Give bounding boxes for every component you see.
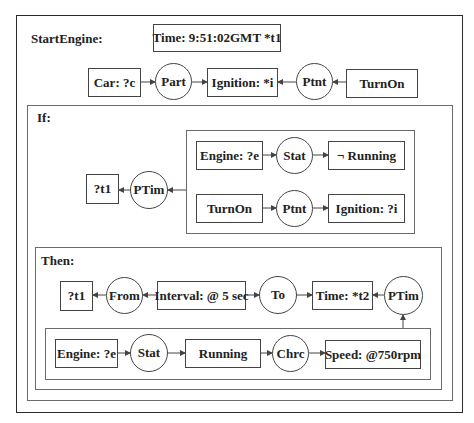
if-ignition-concept: Ignition: ?i <box>328 194 405 223</box>
from-relation: From <box>106 277 143 314</box>
if-ptnt-relation: Ptnt <box>276 190 313 227</box>
car-concept: Car: ?c <box>88 68 141 97</box>
then-t1-concept: ?t1 <box>60 281 93 311</box>
chrc-relation: Chrc <box>272 335 309 372</box>
part-relation: Part <box>155 63 192 100</box>
ignition-concept: Ignition: *i <box>207 68 278 97</box>
interval-concept: Interval: @ 5 sec <box>157 281 246 310</box>
to-relation: To <box>259 276 297 314</box>
running-concept: Running <box>185 339 261 368</box>
graph-title: StartEngine: <box>31 31 103 47</box>
if-label: If: <box>37 110 51 126</box>
if-stat-relation: Stat <box>276 137 313 174</box>
speed-concept: Speed: @750rpm <box>325 340 421 369</box>
if-ptim-relation: PTim <box>130 171 168 209</box>
time-t2-concept: Time: *t2 <box>312 281 373 310</box>
then-engine-concept: Engine: ?e <box>55 339 118 368</box>
if-turnon-concept: TurnOn <box>196 194 263 223</box>
then-label: Then: <box>41 253 74 269</box>
then-ptim-relation: PTim <box>384 276 423 315</box>
turnon-concept: TurnOn <box>346 69 418 98</box>
time-concept: Time: 9:51:02GMT *t1 <box>153 24 281 52</box>
if-engine-concept: Engine: ?e <box>196 141 263 170</box>
if-t1-concept: ?t1 <box>86 174 119 204</box>
not-running-concept: ¬ Running <box>328 141 405 170</box>
ptnt-relation: Ptnt <box>296 63 333 100</box>
then-stat-relation: Stat <box>130 334 168 372</box>
